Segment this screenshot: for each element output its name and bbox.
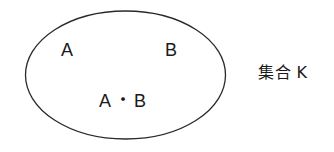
label-intersection-left: A xyxy=(99,91,112,111)
label-set-name: 集合 K xyxy=(258,65,308,81)
middle-dot-separator: ・ xyxy=(112,91,135,109)
diagram-canvas: A B A・B 集合 K xyxy=(0,0,334,152)
label-element-b: B xyxy=(165,41,177,59)
set-boundary-ellipse xyxy=(26,11,226,139)
label-intersection-ab: A・B xyxy=(99,92,147,110)
label-element-a: A xyxy=(61,41,73,59)
label-intersection-right: B xyxy=(134,91,147,111)
